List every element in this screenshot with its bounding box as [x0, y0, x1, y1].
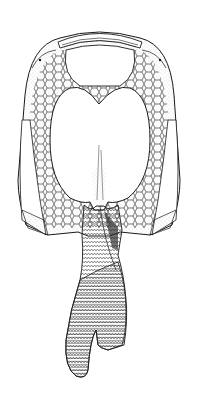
- left-orbit: [39, 59, 41, 61]
- oral-plate: [65, 45, 134, 86]
- fossil-fish-illustration: [0, 0, 198, 394]
- tail-fin: [66, 262, 126, 377]
